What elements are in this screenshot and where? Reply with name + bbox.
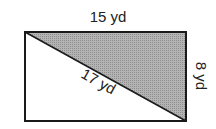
right-side-label: 8 yd	[193, 62, 210, 90]
top-side-label: 15 yd	[90, 8, 127, 25]
rectangle-diagram: 15 yd 8 yd 17 yd	[0, 0, 216, 129]
